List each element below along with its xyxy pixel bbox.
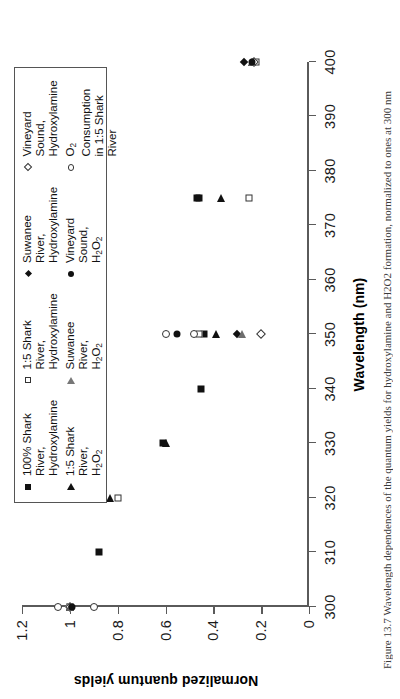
data-point <box>256 330 266 340</box>
x-tick-label: 330 <box>322 431 338 456</box>
data-point <box>198 386 205 393</box>
figure-caption: Figure 13.7 Wavelength dependences of th… <box>381 9 393 669</box>
y-tick-label: 0 <box>301 620 317 628</box>
x-tick-label: 380 <box>322 159 338 184</box>
legend-item-label: 100% Shark River,Hydroxylamine <box>21 396 60 477</box>
legend-item-label: O2 Consumptionin 1:5 Shark River <box>64 76 119 157</box>
legend-item-label: 1:5 Shark River,H2O2 <box>64 396 106 477</box>
legend-item[interactable]: O2 Consumptionin 1:5 Shark River <box>64 76 119 173</box>
x-tick-label: 370 <box>322 213 338 238</box>
legend-item[interactable]: Vineyard Sound,H2O2 <box>64 183 119 280</box>
data-point <box>195 195 202 202</box>
legend-item-label: Suwanee River,H2O2 <box>64 289 106 370</box>
legend-item-label: Vineyard Sound,Hydroxylamine <box>21 76 60 157</box>
y-tick <box>22 607 23 614</box>
y-axis-title: Normalized quantum yields <box>73 673 258 689</box>
x-tick <box>309 442 316 443</box>
y-tick-label: 1.2 <box>14 620 30 641</box>
data-point <box>95 549 102 556</box>
open-triangle-icon <box>65 376 77 386</box>
y-tick <box>118 607 119 614</box>
x-tick <box>309 61 316 62</box>
y-tick-label: 1 <box>62 620 78 628</box>
y-tick <box>213 607 214 614</box>
y-tick <box>166 607 167 614</box>
x-tick <box>309 279 316 280</box>
legend-item-label: 1:5 Shark River,Hydroxylamine <box>21 289 60 370</box>
x-tick-label: 390 <box>322 104 338 129</box>
open-square-icon <box>22 376 34 386</box>
legend-item-label: Vineyard Sound,H2O2 <box>64 183 106 264</box>
x-tick-label: 340 <box>322 377 338 402</box>
filled-circle-icon <box>65 269 77 279</box>
x-axis-line <box>307 62 309 607</box>
data-point <box>217 194 225 202</box>
x-tick-label: 310 <box>322 540 338 565</box>
legend-item[interactable]: 1:5 Shark River,H2O2 <box>64 396 119 493</box>
filled-triangle-icon <box>65 482 77 492</box>
x-tick <box>309 333 316 334</box>
data-point <box>248 59 255 66</box>
legend-item[interactable]: 1:5 Shark River,Hydroxylamine <box>21 289 60 386</box>
y-tick-label: 0.8 <box>110 620 126 641</box>
x-tick-label: 320 <box>322 486 338 511</box>
open-diamond-icon <box>22 163 34 173</box>
x-tick-label: 360 <box>322 268 338 293</box>
data-point <box>69 604 76 611</box>
legend-item-label: Suwanee River,Hydroxylamine <box>21 183 60 264</box>
open-circle-icon <box>65 163 77 173</box>
data-point <box>106 494 114 502</box>
data-point <box>174 331 181 338</box>
data-point <box>238 331 246 339</box>
y-tick-label: 0.2 <box>253 620 269 641</box>
rotated-figure-frame: 300310320330340350360370380390400 00.20.… <box>0 0 400 699</box>
data-point <box>114 495 121 502</box>
legend-box: 100% Shark River,Hydroxylamine1:5 Shark … <box>14 67 107 503</box>
data-point <box>90 603 98 611</box>
data-point <box>162 331 170 339</box>
x-tick-label: 300 <box>322 595 338 620</box>
x-tick-label: 350 <box>322 322 338 347</box>
legend-grid: 100% Shark River,Hydroxylamine1:5 Shark … <box>21 76 102 492</box>
filled-square-icon <box>22 482 34 492</box>
x-tick-label: 400 <box>322 50 338 75</box>
y-tick <box>309 607 310 614</box>
x-tick <box>309 224 316 225</box>
x-tick <box>309 497 316 498</box>
x-tick <box>309 115 316 116</box>
figure-canvas: 300310320330340350360370380390400 00.20.… <box>0 0 400 699</box>
data-point <box>162 440 170 448</box>
y-tick <box>261 607 262 614</box>
x-tick <box>309 551 316 552</box>
data-point <box>54 603 62 611</box>
data-point <box>246 195 253 202</box>
data-point <box>190 331 198 339</box>
small-filled-diamond-icon <box>22 269 34 279</box>
x-axis-title: Wavelength (nm) <box>351 62 367 607</box>
y-tick-label: 0.6 <box>158 620 174 641</box>
x-tick <box>309 170 316 171</box>
data-point <box>212 331 220 339</box>
y-tick-label: 0.4 <box>205 620 221 641</box>
legend-item[interactable]: Vineyard Sound,Hydroxylamine <box>21 76 60 173</box>
legend-item[interactable]: Suwanee River,H2O2 <box>64 289 119 386</box>
x-tick <box>309 388 316 389</box>
legend-item[interactable]: Suwanee River,Hydroxylamine <box>21 183 60 280</box>
legend-item[interactable]: 100% Shark River,Hydroxylamine <box>21 396 60 493</box>
